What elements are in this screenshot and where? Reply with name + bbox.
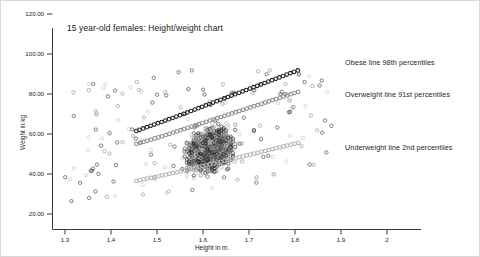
percentile-point: [146, 177, 150, 181]
scatter-point: [238, 132, 241, 135]
scatter-point: [224, 122, 227, 125]
scatter-point: [163, 166, 166, 169]
percentile-point: [278, 146, 282, 150]
percentile-point: [164, 133, 168, 137]
scatter-point: [87, 196, 90, 199]
annotation-underweight-line: Underweight line 2nd percentiles: [345, 143, 452, 152]
x-axis-label: Height in m.: [195, 244, 229, 251]
percentile-point: [292, 70, 296, 74]
chart-canvas: 120.00100.0080.0060.0040.0020.00 1.31.41…: [1, 1, 480, 257]
percentile-point: [267, 100, 271, 104]
scatter-point: [88, 82, 91, 85]
scatter-point: [326, 91, 329, 94]
scatter-point: [255, 181, 258, 184]
scatter-point: [72, 91, 75, 94]
scatter-point: [320, 79, 323, 82]
percentile-point: [168, 132, 172, 136]
scatter-point: [203, 93, 206, 96]
x-tick-label: 1.3: [61, 236, 70, 243]
scatter-point: [137, 88, 140, 91]
scatter-point: [87, 135, 90, 138]
scatter-point: [173, 145, 176, 148]
percentile-point: [263, 101, 267, 105]
scatter-point: [142, 116, 145, 119]
annotation-overweight-line: Overweight line 91st percentiles: [345, 90, 450, 99]
percentile-point: [193, 108, 197, 112]
percentile-point: [186, 126, 190, 130]
scatter-point: [192, 132, 195, 135]
percentile-point: [260, 150, 264, 154]
scatter-point: [149, 148, 152, 151]
percentile-point: [252, 152, 256, 156]
x-tick-label: 1.6: [199, 236, 208, 243]
percentile-point: [245, 154, 249, 158]
scatter-point: [190, 69, 193, 72]
y-tick-label: 100.00: [25, 50, 44, 57]
percentile-point: [238, 155, 242, 159]
percentile-point: [274, 77, 278, 81]
percentile-point: [142, 178, 146, 182]
percentile-point: [146, 139, 150, 143]
y-tick-label: 120.00: [25, 10, 44, 17]
percentile-point: [204, 104, 208, 108]
percentile-point: [245, 107, 249, 111]
percentile-point: [227, 113, 231, 117]
x-tick-label: 1.7: [245, 236, 254, 243]
scatter-point: [308, 75, 311, 78]
percentile-point: [171, 131, 175, 135]
scatter-point: [151, 101, 154, 104]
scatter-point: [78, 181, 81, 184]
scatter-point: [321, 131, 324, 134]
scatter-point: [304, 104, 307, 107]
scatter-point: [259, 138, 262, 141]
percentile-point: [249, 106, 253, 110]
scatter-point: [240, 142, 243, 145]
scatter-point: [153, 161, 156, 164]
scatter-point: [113, 89, 116, 92]
scatter-point: [276, 101, 279, 104]
scatter-point: [186, 118, 189, 121]
percentile-point: [282, 145, 286, 149]
percentile-point: [215, 99, 219, 103]
scatter-point: [276, 126, 279, 129]
scatter-point: [211, 186, 214, 189]
scatter-point: [103, 149, 106, 152]
scatter-point: [285, 160, 288, 163]
percentile-point: [219, 98, 223, 102]
percentile-point: [260, 102, 264, 106]
y-tick-label: 80.00: [29, 90, 45, 97]
percentile-point: [238, 109, 242, 113]
scatter-point: [108, 152, 111, 155]
y-tick-label: 60.00: [29, 130, 45, 137]
scatter-point: [240, 160, 243, 163]
x-axis-ticks: 1.31.41.51.61.71.81.92: [61, 230, 390, 244]
percentile-point: [234, 110, 238, 114]
scatter-point: [121, 141, 124, 144]
percentile-point: [135, 142, 139, 146]
percentile-point: [241, 108, 245, 112]
scatter-point: [301, 136, 304, 139]
scatter-point: [303, 80, 306, 83]
percentile-point: [201, 121, 205, 125]
scatter-point: [87, 89, 90, 92]
scatter-point: [106, 95, 109, 98]
annotation-obese-line: Obese line 98th percentiles: [345, 58, 435, 67]
percentile-point: [278, 76, 282, 80]
scatter-point: [258, 124, 261, 127]
x-tick-label: 1.8: [291, 236, 300, 243]
percentile-point: [208, 119, 212, 123]
scatter-point: [191, 188, 194, 191]
scatter-point: [311, 84, 314, 87]
scatter-point: [116, 104, 119, 107]
scatter-plot-area: 120.00100.0080.0060.0040.0020.00 1.31.41…: [1, 1, 480, 257]
percentile-point: [241, 90, 245, 94]
scatter-point: [114, 195, 117, 198]
scatter-point: [271, 155, 274, 158]
percentile-point: [274, 97, 278, 101]
percentile-point: [171, 171, 175, 175]
scatter-point: [152, 76, 155, 79]
percentile-point: [263, 149, 267, 153]
scatter-point: [312, 163, 315, 166]
scatter-point: [234, 123, 237, 126]
percentile-point: [281, 74, 285, 78]
